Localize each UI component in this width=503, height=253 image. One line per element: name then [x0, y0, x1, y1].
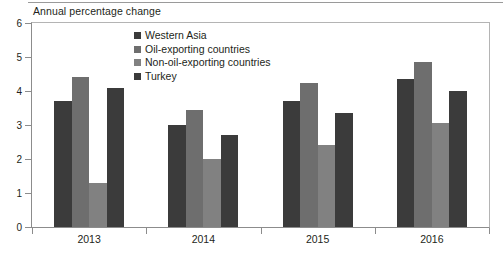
x-axis-label: 2014	[192, 233, 215, 245]
bar	[335, 113, 353, 227]
bar	[414, 62, 432, 227]
y-axis-label: 0	[2, 222, 22, 233]
y-axis-label: 4	[2, 86, 22, 97]
legend-swatch-icon	[134, 46, 141, 53]
y-axis-label: 1	[2, 188, 22, 199]
chart-title: Annual percentage change	[33, 5, 161, 17]
top-divider	[28, 2, 503, 3]
legend-swatch-icon	[134, 59, 141, 66]
bar	[300, 83, 318, 228]
bar	[107, 88, 125, 227]
bar	[186, 110, 204, 227]
x-axis-tick	[375, 228, 376, 234]
legend-item[interactable]: Turkey	[134, 70, 270, 84]
y-axis-label: 2	[2, 154, 22, 165]
bar	[318, 145, 336, 227]
x-axis-label: 2015	[306, 233, 329, 245]
y-axis-label: 6	[2, 18, 22, 29]
bar	[168, 125, 186, 227]
legend-swatch-icon	[134, 32, 141, 39]
bar	[54, 101, 72, 227]
bar	[72, 77, 90, 227]
x-axis-label: 2016	[420, 233, 443, 245]
bar	[89, 183, 107, 227]
legend-swatch-icon	[134, 73, 141, 80]
bar	[397, 79, 415, 227]
legend-item[interactable]: Western Asia	[134, 29, 270, 43]
x-axis-tick	[489, 228, 490, 234]
y-axis-tick	[25, 227, 32, 228]
x-axis-tick	[261, 228, 262, 234]
legend-item-label: Oil-exporting countries	[145, 43, 250, 57]
y-axis-tick	[25, 91, 32, 92]
y-axis-tick	[25, 125, 32, 126]
legend-item-label: Western Asia	[145, 29, 207, 43]
bar	[432, 123, 450, 227]
chart-figure: Annual percentage change 0123456 2013201…	[0, 0, 503, 253]
x-axis-tick	[32, 228, 33, 234]
legend-item[interactable]: Non-oil-exporting countries	[134, 56, 270, 70]
y-axis-tick	[25, 23, 32, 24]
bar	[449, 91, 467, 227]
bar	[221, 135, 239, 227]
y-axis-tick	[25, 57, 32, 58]
x-axis-tick	[146, 228, 147, 234]
y-axis-tick	[25, 193, 32, 194]
bar	[203, 159, 221, 227]
y-axis-label: 3	[2, 120, 22, 131]
y-axis-tick	[25, 159, 32, 160]
x-axis-label: 2013	[77, 233, 100, 245]
legend-item-label: Turkey	[145, 70, 177, 84]
legend-item-label: Non-oil-exporting countries	[145, 56, 270, 70]
y-axis-label: 5	[2, 52, 22, 63]
bar	[283, 101, 301, 227]
legend-item[interactable]: Oil-exporting countries	[134, 43, 270, 57]
chart-legend: Western AsiaOil-exporting countriesNon-o…	[134, 29, 270, 83]
